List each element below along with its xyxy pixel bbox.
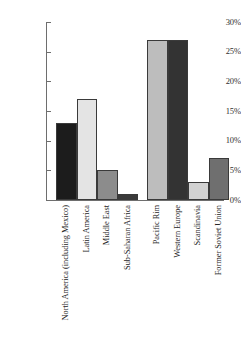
bar (118, 194, 139, 200)
x-axis-label: North America (including Mexico) (62, 205, 70, 320)
x-axis-label: Scandinavia (194, 205, 202, 245)
x-axis-label-slot: Middle East (97, 201, 118, 351)
bar (168, 40, 189, 200)
x-axis-label: Former Soviet Union (215, 205, 223, 275)
x-axis-label: Sub-Saharan Africa (124, 205, 132, 270)
x-axis-label-slot: Former Soviet Union (209, 201, 230, 351)
bar (188, 182, 209, 200)
x-axis-label: Western Europe (174, 205, 182, 258)
bar (97, 170, 118, 200)
x-axis-label-slot: North America (including Mexico) (56, 201, 77, 351)
x-axis-label-slot: Western Europe (168, 201, 189, 351)
x-axis-label: Pacific Rim (153, 205, 161, 244)
bar (77, 99, 98, 200)
bar (56, 123, 77, 200)
bar-chart: 30%25%20%15%10%5%0% North America (inclu… (0, 0, 241, 351)
x-axis-label: Latin America (83, 205, 91, 253)
x-axis-labels: North America (including Mexico)Latin Am… (47, 201, 224, 351)
x-axis-label-slot: Pacific Rim (147, 201, 168, 351)
x-axis-label-slot: Sub-Saharan Africa (118, 201, 139, 351)
x-axis-label-slot: Scandinavia (188, 201, 209, 351)
plot-area (47, 22, 224, 200)
x-axis-label: Middle East (103, 205, 111, 245)
x-axis-label-slot: Latin America (77, 201, 98, 351)
bar (209, 158, 230, 200)
bar (147, 40, 168, 200)
